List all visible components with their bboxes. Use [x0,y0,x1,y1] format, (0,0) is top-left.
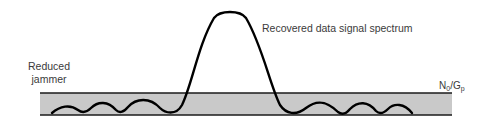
recovered-signal-label: Recovered data signal spectrum [262,22,413,35]
noise-level-sub-p: p [461,85,465,92]
noise-level-label: N0/Gp [439,79,465,95]
reduced-jammer-label-line1: Reduced [28,60,70,73]
reduced-jammer-label-line2: jammer [28,73,70,86]
spectrum-diagram: Reduced jammer Recovered data signal spe… [0,0,493,126]
noise-level-slash-G: /G [450,80,461,91]
diagram-svg [0,0,493,126]
reduced-jammer-label: Reduced jammer [28,60,70,86]
